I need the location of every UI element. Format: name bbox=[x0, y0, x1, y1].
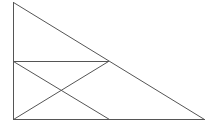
triangle-diagram bbox=[0, 0, 215, 128]
